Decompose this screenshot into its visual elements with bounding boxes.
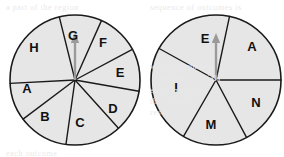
right-spinner[interactable]: EANMI <box>151 15 281 145</box>
sector-label: G <box>68 28 78 43</box>
sector-label: C <box>75 115 85 130</box>
sector-label: E <box>201 31 210 46</box>
sector-label: M <box>206 117 217 132</box>
sector-label: A <box>22 81 32 96</box>
spinners-svg: GFEDCBAHEANMI <box>0 0 284 157</box>
sector-label: N <box>251 95 260 110</box>
sector-label: F <box>99 35 107 50</box>
sector-label: I <box>174 80 178 95</box>
sector-label: E <box>116 65 125 80</box>
sector-label: B <box>40 109 49 124</box>
left-spinner[interactable]: GFEDCBAH <box>10 15 140 145</box>
sector-label: A <box>247 39 257 54</box>
figure-canvas: sequence of outcomes isa part of the reg… <box>0 0 284 157</box>
sector-label: H <box>29 40 38 55</box>
sector-label: D <box>108 101 117 116</box>
